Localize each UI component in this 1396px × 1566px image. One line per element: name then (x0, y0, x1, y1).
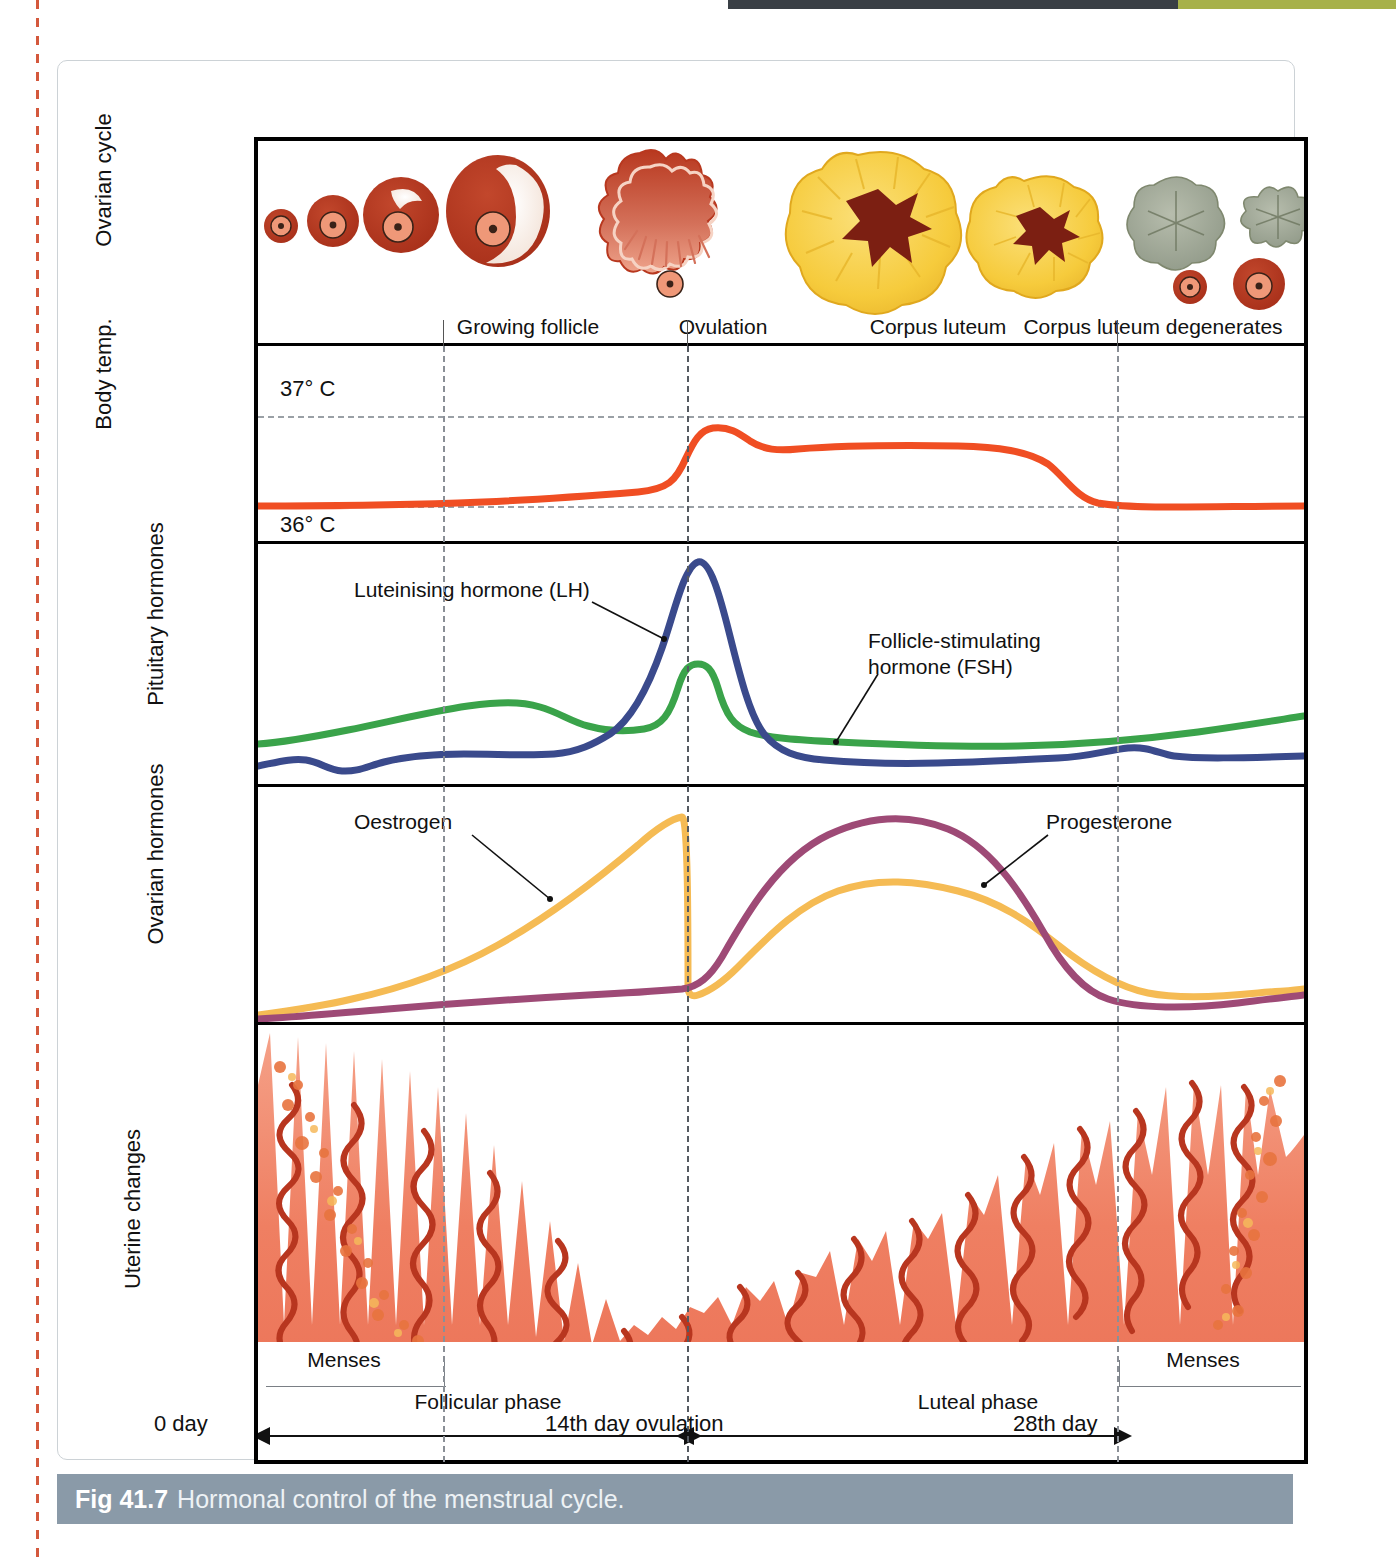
panel-pituitary-hormones: Luteinising hormone (LH) Follicle-stimul… (258, 544, 1304, 787)
row-label-ovarian-cycle: Ovarian cycle (91, 80, 117, 280)
axis-label-day-28: 28th day (1013, 1411, 1097, 1437)
ovarian-stage-label-corpus-luteum-degenerates: Corpus luteum degenerates (988, 315, 1318, 339)
panel-ovarian-hormones: Oestrogen Progesterone (258, 787, 1304, 1025)
menses-left-rule (266, 1386, 446, 1387)
panel-uterine-changes: Menses Menses Follicular phase Luteal ph… (258, 1025, 1304, 1460)
panel-body-temp: 37° C 36° C (258, 346, 1304, 544)
guide-day-5 (443, 346, 445, 1462)
ovarian-tick-2 (687, 320, 688, 346)
axis-label-day-0: 0 day (154, 1411, 208, 1437)
figure-caption: Hormonal control of the menstrual cycle. (168, 1485, 624, 1514)
lh-label: Luteinising hormone (LH) (354, 577, 590, 603)
top-dark-bar (728, 0, 1178, 9)
guide-day-28 (1117, 346, 1119, 1462)
row-label-pituitary-hormones: Pituitary hormones (143, 489, 169, 739)
menses-right-rule (1119, 1386, 1301, 1387)
figure-number: Fig 41.7 (57, 1485, 168, 1514)
ovarian-tick-3 (1117, 320, 1118, 346)
ovarian-cycle-illustrations (258, 141, 1304, 343)
phase-bars: Menses Menses Follicular phase Luteal ph… (258, 1342, 1304, 1460)
guide-day-14-ovulation (687, 346, 689, 1462)
row-label-body-temp: Body temp. (91, 284, 117, 464)
page-margin-rule (36, 0, 39, 1566)
figure-card: Ovarian cycle Body temp. Pituitary hormo… (57, 60, 1295, 1460)
panel-ovarian-cycle: Growing follicle Ovulation Corpus luteum… (258, 141, 1304, 346)
menses-right-label: Menses (1138, 1348, 1268, 1372)
figure-caption-bar: Fig 41.7 Hormonal control of the menstru… (57, 1474, 1293, 1524)
row-label-ovarian-hormones: Ovarian hormones (143, 729, 169, 979)
ovarian-tick-1 (443, 320, 444, 346)
progesterone-label: Progesterone (1046, 809, 1172, 835)
chart-frame: Growing follicle Ovulation Corpus luteum… (254, 137, 1308, 1464)
menses-left-label: Menses (284, 1348, 404, 1372)
axis-label-day-14: 14th day ovulation (545, 1411, 724, 1437)
fsh-label-line2: hormone (FSH) (868, 654, 1013, 680)
menses-right-tick (1119, 1360, 1120, 1386)
top-olive-bar (1178, 0, 1396, 9)
body-temp-curve (258, 346, 1304, 541)
phase-arrows (258, 1424, 1304, 1464)
oestrogen-label: Oestrogen (354, 809, 452, 835)
row-label-uterine-changes: Uterine changes (120, 1094, 146, 1324)
fsh-label-line1: Follicle-stimulating (868, 628, 1041, 654)
